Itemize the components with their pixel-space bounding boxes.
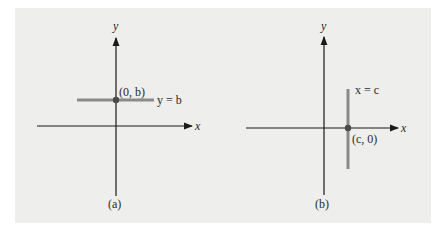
- x-axis-label-a: x: [194, 119, 201, 133]
- line-label-a: y = b: [157, 93, 182, 107]
- caption-a: (a): [108, 197, 121, 211]
- y-axis-label-b: y: [320, 19, 327, 33]
- point-label-b: (c, 0): [352, 132, 377, 146]
- point-label-a: (0, b): [119, 85, 145, 99]
- y-axis-label-a: y: [112, 19, 119, 33]
- x-axis-label-b: x: [400, 121, 407, 135]
- panel-a: y x (0, b) y = b (a): [37, 19, 201, 211]
- diagram-canvas: y x (0, b) y = b (a) y x (c, 0) x = c (b…: [0, 0, 448, 238]
- caption-b: (b): [315, 197, 329, 211]
- line-label-b: x = c: [355, 83, 379, 97]
- panel-b: y x (c, 0) x = c (b): [246, 19, 407, 211]
- point-c-0: [345, 125, 351, 131]
